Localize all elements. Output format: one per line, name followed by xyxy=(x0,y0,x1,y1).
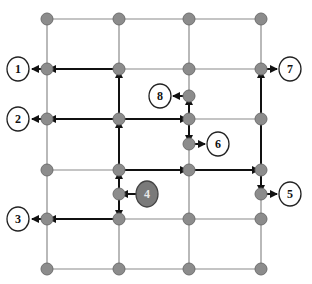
node-n6-source xyxy=(183,138,195,150)
label-6: 6 xyxy=(207,132,229,156)
node-n4-target xyxy=(113,188,125,200)
label-6-text: 6 xyxy=(215,137,221,151)
label-3-text: 3 xyxy=(15,212,21,226)
label-8: 8 xyxy=(149,84,171,108)
label-5: 5 xyxy=(279,182,301,206)
diagram-canvas: 1 2 3 4 5 6 7 8 xyxy=(0,0,312,284)
label-4: 4 xyxy=(136,181,158,207)
label-8-text: 8 xyxy=(157,89,163,103)
grid-nodes xyxy=(41,13,267,275)
node-n5-source xyxy=(255,188,267,200)
label-4-text: 4 xyxy=(144,187,150,201)
label-2-text: 2 xyxy=(15,112,21,126)
label-2: 2 xyxy=(7,107,29,131)
label-5-text: 5 xyxy=(287,187,293,201)
node-n8-source xyxy=(183,90,195,102)
label-7-text: 7 xyxy=(287,62,293,76)
label-3: 3 xyxy=(7,207,29,231)
label-7: 7 xyxy=(279,57,301,81)
label-1: 1 xyxy=(7,57,29,81)
routing-diagram: 1 2 3 4 5 6 7 8 xyxy=(0,0,312,284)
label-1-text: 1 xyxy=(15,62,21,76)
